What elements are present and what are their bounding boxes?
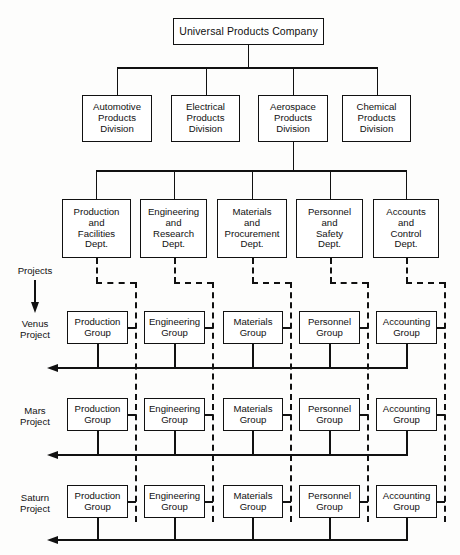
department-label-line2: and	[244, 218, 260, 229]
group-label-line1: Personnel	[308, 317, 351, 328]
connector-venus-drop-3	[252, 344, 254, 369]
dashed-corridor-3	[290, 282, 292, 522]
group-label-line2: Group	[316, 502, 343, 513]
dashed-corridor-4	[367, 282, 369, 522]
dashed-stub-mars-5	[436, 414, 445, 416]
project-label-line1: Venus	[6, 318, 64, 329]
connector-saturn-project-bus	[58, 539, 407, 541]
dashed-dept-jog-1	[96, 282, 136, 284]
group-label-line2: Group	[393, 328, 420, 339]
box-engineering-and-research-dept[interactable]: Engineering and Research Dept.	[140, 199, 207, 258]
connector-saturn-drop-5	[406, 518, 408, 541]
box-mars-production-group[interactable]: Production Group	[67, 398, 128, 431]
mars-project-arrow-head	[47, 451, 58, 459]
group-label-line1: Accounting	[383, 317, 430, 328]
group-label-line1: Production	[75, 404, 121, 415]
dashed-stub-venus-4	[359, 327, 368, 329]
box-mars-engineering-group[interactable]: Engineering Group	[144, 398, 205, 431]
projects-axis-label-text: Projects	[6, 265, 64, 276]
dashed-dept-drop-3	[252, 258, 254, 283]
connector-venus-drop-5	[406, 344, 408, 369]
group-label-line1: Personnel	[308, 404, 351, 415]
root-label: Universal Products Company	[179, 26, 318, 38]
group-label-line1: Engineering	[149, 317, 200, 328]
department-label-line4: Dept.	[318, 239, 341, 250]
group-label-line1: Accounting	[383, 404, 430, 415]
dashed-stub-mars-4	[359, 414, 368, 416]
dashed-dept-jog-5	[406, 282, 445, 284]
dashed-stub-venus-2	[204, 327, 213, 329]
box-saturn-accounting-group[interactable]: Accounting Group	[376, 485, 437, 518]
department-label-line4: Dept.	[85, 239, 108, 250]
group-label-line1: Personnel	[308, 491, 351, 502]
box-chemical-products-division[interactable]: Chemical Products Division	[342, 95, 411, 142]
projects-axis-label: Projects	[6, 265, 64, 276]
connector-mars-drop-4	[329, 431, 331, 456]
connector-division-bus	[117, 67, 377, 69]
connector-mars-drop-5	[406, 431, 408, 456]
connector-venus-drop-4	[329, 344, 331, 369]
dashed-stub-saturn-2	[204, 501, 213, 503]
connector-division-drop-4	[377, 67, 379, 95]
group-label-line1: Materials	[234, 317, 273, 328]
connector-saturn-drop-1	[97, 518, 99, 541]
connector-saturn-drop-4	[329, 518, 331, 541]
box-venus-production-group[interactable]: Production Group	[67, 311, 128, 344]
box-personnel-and-safety-dept[interactable]: Personnel and Safety Dept.	[296, 199, 363, 258]
project-label-mars: Mars Project	[6, 405, 64, 428]
dashed-corridor-2	[212, 282, 214, 522]
box-mars-accounting-group[interactable]: Accounting Group	[376, 398, 437, 431]
dashed-stub-mars-2	[204, 414, 213, 416]
group-label-line1: Production	[75, 317, 121, 328]
project-label-saturn: Saturn Project	[6, 492, 64, 515]
group-label-line2: Group	[240, 328, 267, 339]
box-production-and-facilities-dept[interactable]: Production and Facilities Dept.	[62, 199, 131, 258]
box-venus-materials-group[interactable]: Materials Group	[223, 311, 283, 344]
dashed-dept-drop-2	[174, 258, 176, 283]
connector-mars-drop-2	[174, 431, 176, 456]
box-mars-personnel-group[interactable]: Personnel Group	[299, 398, 360, 431]
department-label-line2: and	[88, 218, 104, 229]
group-label-line2: Group	[161, 328, 188, 339]
projects-axis-arrow-head	[31, 302, 39, 313]
dashed-dept-drop-1	[96, 258, 98, 283]
connector-division-drop-2	[206, 67, 208, 95]
connector-venus-project-bus	[58, 367, 407, 369]
dashed-stub-saturn-5	[436, 501, 445, 503]
box-aerospace-products-division[interactable]: Aerospace Products Division	[258, 95, 328, 142]
box-saturn-personnel-group[interactable]: Personnel Group	[299, 485, 360, 518]
box-saturn-production-group[interactable]: Production Group	[67, 485, 128, 518]
dashed-dept-drop-4	[330, 258, 332, 283]
department-label-line4: Dept.	[162, 239, 185, 250]
connector-saturn-drop-3	[252, 518, 254, 541]
division-label-line3: Division	[276, 124, 310, 135]
box-venus-accounting-group[interactable]: Accounting Group	[376, 311, 437, 344]
department-label-line2: and	[165, 218, 181, 229]
connector-aerospace-stem	[293, 142, 295, 171]
box-mars-materials-group[interactable]: Materials Group	[223, 398, 283, 431]
dashed-stub-saturn-1	[127, 501, 136, 503]
dashed-corridor-1	[135, 282, 137, 522]
dashed-dept-jog-2	[174, 282, 213, 284]
box-materials-and-procurement-dept[interactable]: Materials and Procurement Dept.	[217, 199, 287, 258]
connector-division-drop-3	[293, 67, 295, 95]
box-venus-engineering-group[interactable]: Engineering Group	[144, 311, 205, 344]
connector-root-stem	[248, 45, 250, 68]
dashed-dept-jog-3	[252, 282, 291, 284]
group-label-line2: Group	[161, 502, 188, 513]
box-electrical-products-division[interactable]: Electrical Products Division	[171, 95, 240, 142]
group-label-line2: Group	[393, 415, 420, 426]
box-accounts-and-control-dept[interactable]: Accounts and Control Dept.	[373, 199, 439, 258]
box-venus-personnel-group[interactable]: Personnel Group	[299, 311, 360, 344]
project-label-line2: Project	[6, 503, 64, 514]
box-saturn-materials-group[interactable]: Materials Group	[223, 485, 283, 518]
box-saturn-engineering-group[interactable]: Engineering Group	[144, 485, 205, 518]
group-label-line1: Engineering	[149, 491, 200, 502]
box-automotive-products-division[interactable]: Automotive Products Division	[82, 95, 152, 142]
venus-project-arrow-head	[47, 364, 58, 372]
project-label-line2: Project	[6, 416, 64, 427]
project-label-line1: Mars	[6, 405, 64, 416]
group-label-line2: Group	[316, 415, 343, 426]
dashed-stub-saturn-3	[282, 501, 291, 503]
box-universal-products-company[interactable]: Universal Products Company	[173, 18, 324, 45]
